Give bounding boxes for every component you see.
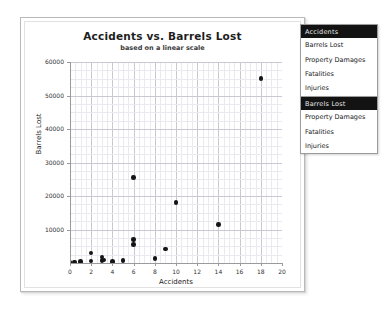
menu-item[interactable]: Fatalities bbox=[301, 67, 377, 81]
chart-subtitle: based on a linear scale bbox=[25, 44, 300, 52]
scatter-point bbox=[259, 76, 264, 81]
x-tick-label: 2 bbox=[81, 268, 101, 275]
menu-item[interactable]: Property Damages bbox=[301, 110, 377, 124]
scatter-point bbox=[102, 258, 107, 263]
menu-header-barrels[interactable]: Barrels Lost bbox=[301, 97, 377, 110]
x-tick-label: 14 bbox=[208, 268, 228, 275]
y-tick bbox=[67, 62, 70, 63]
chart-card: Accidents vs. Barrels Lost based on a li… bbox=[20, 17, 305, 292]
x-tick-label: 16 bbox=[230, 268, 250, 275]
x-axis-label: Accidents bbox=[70, 278, 282, 286]
scatter-point bbox=[121, 258, 126, 263]
x-tick bbox=[112, 263, 113, 266]
chart-title: Accidents vs. Barrels Lost bbox=[25, 30, 300, 42]
x-tick bbox=[155, 263, 156, 266]
menu-header-accidents[interactable]: Accidents bbox=[301, 25, 377, 38]
x-tick bbox=[91, 263, 92, 266]
y-axis-line bbox=[70, 62, 71, 263]
y-tick bbox=[67, 96, 70, 97]
x-tick-label: 10 bbox=[166, 268, 186, 275]
y-tick bbox=[67, 163, 70, 164]
scatter-point bbox=[174, 200, 179, 205]
scatter-point bbox=[131, 237, 136, 242]
y-tick-label: 40000 bbox=[25, 125, 64, 132]
x-tick-label: 18 bbox=[251, 268, 271, 275]
scatter-point bbox=[131, 175, 136, 180]
y-tick bbox=[67, 230, 70, 231]
scatter-point bbox=[163, 247, 168, 252]
x-tick-label: 12 bbox=[187, 268, 207, 275]
x-tick-label: 20 bbox=[272, 268, 292, 275]
x-tick-label: 0 bbox=[60, 268, 80, 275]
menu-item[interactable]: Injuries bbox=[301, 81, 377, 95]
x-tick bbox=[70, 263, 71, 266]
y-tick-label: 50000 bbox=[25, 92, 64, 99]
y-tick bbox=[67, 196, 70, 197]
x-tick bbox=[197, 263, 198, 266]
x-tick-label: 6 bbox=[124, 268, 144, 275]
menu-item[interactable]: Injuries bbox=[301, 139, 377, 153]
x-tick bbox=[282, 263, 283, 266]
y-tick-label: 60000 bbox=[25, 58, 64, 65]
x-tick bbox=[134, 263, 135, 266]
scatter-point bbox=[89, 251, 94, 256]
menu-panel-barrels: Barrels LostProperty DamagesFatalitiesIn… bbox=[300, 96, 378, 154]
x-tick bbox=[261, 263, 262, 266]
scatter-point bbox=[153, 256, 158, 261]
x-tick bbox=[240, 263, 241, 266]
menu-item[interactable]: Property Damages bbox=[301, 52, 377, 66]
scatter-point bbox=[131, 242, 136, 247]
x-tick-label: 4 bbox=[102, 268, 122, 275]
scatter-points-layer bbox=[70, 62, 282, 263]
y-axis-label: Barrels Lost bbox=[35, 99, 43, 169]
y-tick-label: 20000 bbox=[25, 192, 64, 199]
scatter-point bbox=[216, 222, 221, 227]
menu-item[interactable]: Fatalities bbox=[301, 124, 377, 138]
plot-area bbox=[70, 62, 282, 263]
x-tick bbox=[218, 263, 219, 266]
x-tick-label: 8 bbox=[145, 268, 165, 275]
y-tick bbox=[67, 129, 70, 130]
menu-item[interactable]: Barrels Lost bbox=[301, 38, 377, 52]
menu-panel-accidents: AccidentsBarrels LostProperty DamagesFat… bbox=[300, 24, 378, 97]
x-tick bbox=[176, 263, 177, 266]
y-tick-label: 30000 bbox=[25, 159, 64, 166]
y-tick-label: 10000 bbox=[25, 226, 64, 233]
chart-inner-frame: Accidents vs. Barrels Lost based on a li… bbox=[24, 21, 301, 288]
